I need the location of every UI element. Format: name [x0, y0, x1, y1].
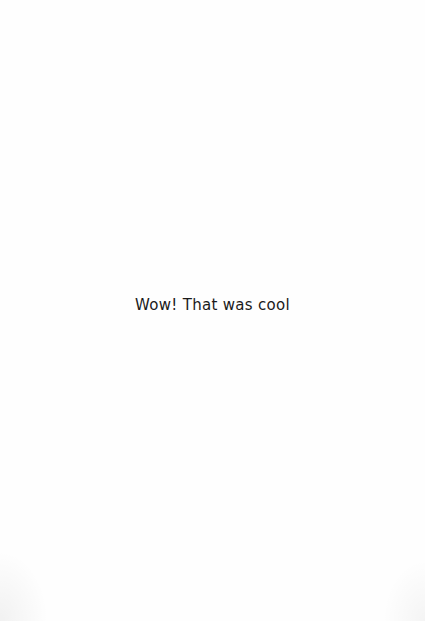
- caption-text: Wow! That was cool: [0, 294, 425, 316]
- page: Wow! That was cool: [0, 0, 425, 621]
